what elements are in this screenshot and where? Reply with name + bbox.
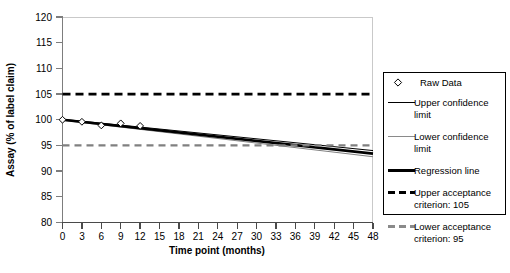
assay-stability-chart: 80859095100105110115120 0369121518212427… [0,0,510,273]
x-tick-label: 15 [154,231,166,242]
x-tick-label: 9 [118,231,124,242]
x-tick-label: 45 [348,231,360,242]
legend: Raw DataUpper confidencelimitLower confi… [384,73,506,245]
x-axis-ticks [63,223,374,230]
legend-label-continued: limit [414,109,431,120]
raw-data-point [59,116,66,123]
x-tick-label: 21 [193,231,205,242]
y-tick-label: 110 [36,63,52,74]
legend-label: Lower confidence [414,131,488,142]
y-tick-label: 100 [35,114,52,125]
y-tick-label: 115 [36,37,52,48]
y-tick-label: 95 [41,140,53,151]
y-tick-label: 120 [35,12,52,23]
y-tick-label: 85 [41,191,53,202]
x-tick-label: 30 [251,231,263,242]
x-tick-label: 27 [232,231,244,242]
raw-data-point [79,118,86,125]
y-axis-tick-labels: 80859095100105110115120 [35,12,52,229]
legend-item: Lower acceptancecriterion: 95 [388,221,491,244]
legend-label: Lower acceptance [414,221,491,232]
legend-label: Upper confidence [414,97,488,108]
x-tick-label: 39 [309,231,321,242]
y-axis-title: Assay (% of label claim) [5,63,16,177]
x-tick-label: 6 [99,231,105,242]
x-tick-label: 42 [329,231,341,242]
x-tick-label: 36 [290,231,302,242]
x-tick-label: 33 [270,231,282,242]
x-tick-label: 12 [135,231,147,242]
x-tick-label: 0 [60,231,66,242]
legend-label-continued: criterion: 95 [414,233,464,244]
x-axis-title: Time point (months) [169,245,265,256]
y-axis: 80859095100105110115120 [35,12,62,229]
x-tick-label: 24 [212,231,224,242]
legend-label-continued: criterion: 105 [414,199,469,210]
y-tick-label: 90 [41,166,53,177]
legend-label: Regression line [414,165,479,176]
y-tick-label: 80 [41,217,53,228]
series-layer [63,94,374,157]
plot-frame [62,18,373,223]
y-tick-label: 105 [35,89,52,100]
x-tick-label: 48 [367,231,379,242]
legend-label-continued: limit [414,143,431,154]
x-tick-label: 18 [173,231,185,242]
x-axis: 036912151821242730333639424548 [60,223,379,243]
chart-canvas: 80859095100105110115120 0369121518212427… [0,0,510,273]
series-regression-line [63,120,374,154]
legend-label: Upper acceptance [414,187,491,198]
x-axis-tick-labels: 036912151821242730333639424548 [60,231,379,242]
legend-label: Raw Data [420,77,462,88]
x-tick-label: 3 [79,231,85,242]
